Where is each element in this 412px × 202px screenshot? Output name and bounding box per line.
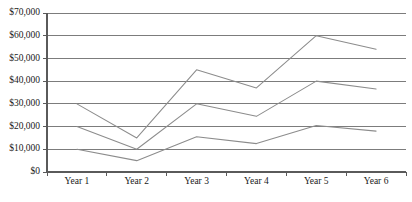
x-axis-tick-label: Year 5 [304,176,329,186]
x-axis-tick-marks [47,172,406,176]
x-axis-tick-label: Year 1 [65,176,90,186]
y-axis-tick-label: $10,000 [9,143,40,153]
data-series-line [77,36,376,138]
x-axis-tick-labels: Year 1Year 2Year 3Year 4Year 5Year 6 [65,176,389,186]
x-axis-tick-label: Year 4 [244,176,269,186]
y-axis-tick-label: $20,000 [9,121,40,131]
gridlines-group [43,13,406,172]
data-series-line [77,81,376,149]
y-axis-tick-label: $40,000 [9,75,40,85]
data-series-line [77,125,376,160]
line-chart: $0$10,000$20,000$30,000$40,000$50,000$60… [0,0,412,202]
y-axis-tick-label: $0 [31,166,41,176]
y-axis-tick-label: $60,000 [9,30,40,40]
x-axis-tick-label: Year 3 [184,176,209,186]
data-series-group [77,36,376,161]
y-axis-tick-label: $30,000 [9,98,40,108]
x-axis-tick-label: Year 6 [364,176,389,186]
y-axis-tick-labels: $0$10,000$20,000$30,000$40,000$50,000$60… [9,7,40,176]
chart-canvas: $0$10,000$20,000$30,000$40,000$50,000$60… [0,0,412,202]
y-axis-tick-label: $50,000 [9,53,40,63]
y-axis-tick-label: $70,000 [9,7,40,17]
x-axis-tick-label: Year 2 [124,176,149,186]
